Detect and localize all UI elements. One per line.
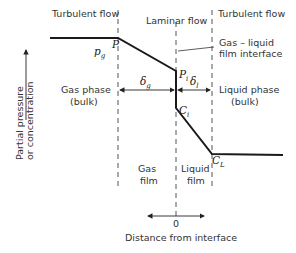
two-film-theory-diagram: Turbulent flow Laminar flow Turbulent fl… [0,0,296,253]
interface-label-1: Gas – liquid [219,37,274,48]
p-g-symbol: pg [94,45,106,60]
origin-label: 0 [173,218,179,229]
liquid-film-label-1: Liquid [181,163,210,174]
interface-label-2: film interface [219,48,282,59]
turbulent-flow-right-label: Turbulent flow [217,8,285,19]
delta-g-symbol: δg [140,75,151,90]
c-i-symbol: Ci [179,104,189,119]
turbulent-flow-left-label: Turbulent flow [51,8,119,19]
x-axis-label: Distance from interface [125,232,237,243]
liquid-bulk-label-2: (bulk) [231,96,259,107]
gas-film-label-2: film [140,175,158,186]
liquid-film-label-2: film [187,175,205,186]
p-symbol: P [111,38,120,50]
laminar-flow-label: Laminar flow [146,15,208,26]
gas-bulk-label-2: (bulk) [70,96,98,107]
interface-pointer [178,47,214,51]
gas-bulk-label-1: Gas phase [61,84,111,95]
gas-film-label-1: Gas [138,163,156,174]
p-i-symbol: Pi [178,68,188,83]
c-l-symbol: CL [212,154,225,169]
delta-l-symbol: δl [190,75,199,90]
y-axis-label: Partial pressure or concentration [14,81,35,160]
svg-text:or concentration: or concentration [24,81,35,160]
liquid-bulk-label-1: Liquid phase [219,84,279,95]
